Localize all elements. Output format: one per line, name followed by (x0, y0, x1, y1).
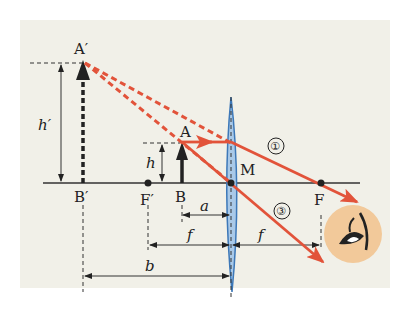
label-lens-center: M (240, 161, 255, 179)
lens-center-point (228, 180, 235, 187)
focal-point-right (318, 180, 325, 187)
label-object-top: A (179, 123, 191, 141)
label-object-height: h (146, 154, 156, 172)
label-image-height: h′ (38, 116, 52, 134)
label-object-distance: a (200, 197, 209, 215)
label-image-top: A′ (73, 40, 89, 58)
label-ray-1: ① (270, 140, 280, 153)
eye-icon (324, 205, 382, 263)
label-focal-length-right: f (257, 226, 266, 244)
focal-point-left (145, 180, 152, 187)
label-focal-right: F (314, 191, 324, 209)
label-focal-length-left: f (186, 226, 195, 244)
label-ray-3: ③ (276, 205, 286, 218)
lens (227, 97, 237, 292)
lens-diagram: A′ B′ A B F′ F M h′ h a f f b ① ③ (0, 0, 413, 321)
label-image-base: B′ (74, 188, 89, 206)
label-focal-left: F′ (140, 191, 154, 209)
label-image-distance: b (145, 257, 155, 275)
label-object-base: B (175, 188, 186, 206)
